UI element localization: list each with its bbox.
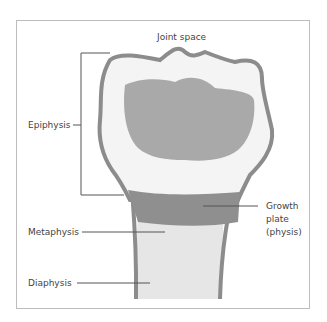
joint-space-label: Joint space — [157, 31, 206, 44]
growth-plate-label-line3: (physis) — [266, 226, 302, 239]
bone-diagram — [0, 0, 327, 322]
growth-plate-label-line2: plate — [266, 213, 289, 226]
epiphysis-label: Epiphysis — [28, 119, 71, 132]
metaphysis-label: Metaphysis — [28, 226, 79, 239]
growth-plate-label-line1: Growth — [266, 200, 299, 213]
growth-plate — [128, 190, 240, 226]
diaphysis-label: Diaphysis — [28, 277, 72, 290]
